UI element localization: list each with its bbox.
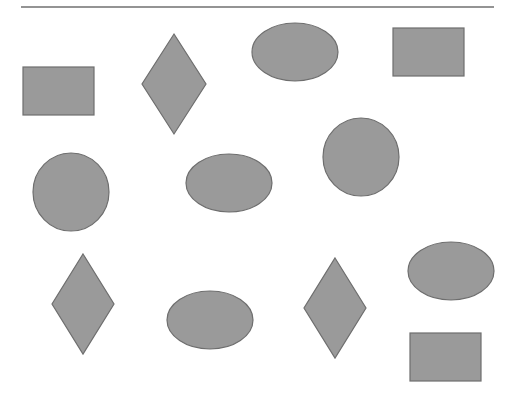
diamond-1-shape [142,34,206,134]
diamond-3-shape [304,258,366,358]
ellipse-1-shape [252,23,338,81]
rectangle-1-shape [23,67,94,115]
rectangle-2-shape [393,28,464,76]
rectangle-3-shape [410,333,481,381]
diamond-2-shape [52,254,114,354]
circle-1-shape [33,153,109,231]
ellipse-3-shape [167,291,253,349]
circle-2-shape [323,118,399,196]
ellipse-2-shape [186,154,272,212]
shapes-canvas [0,0,520,405]
shape-layer [23,23,494,381]
ellipse-4-shape [408,242,494,300]
